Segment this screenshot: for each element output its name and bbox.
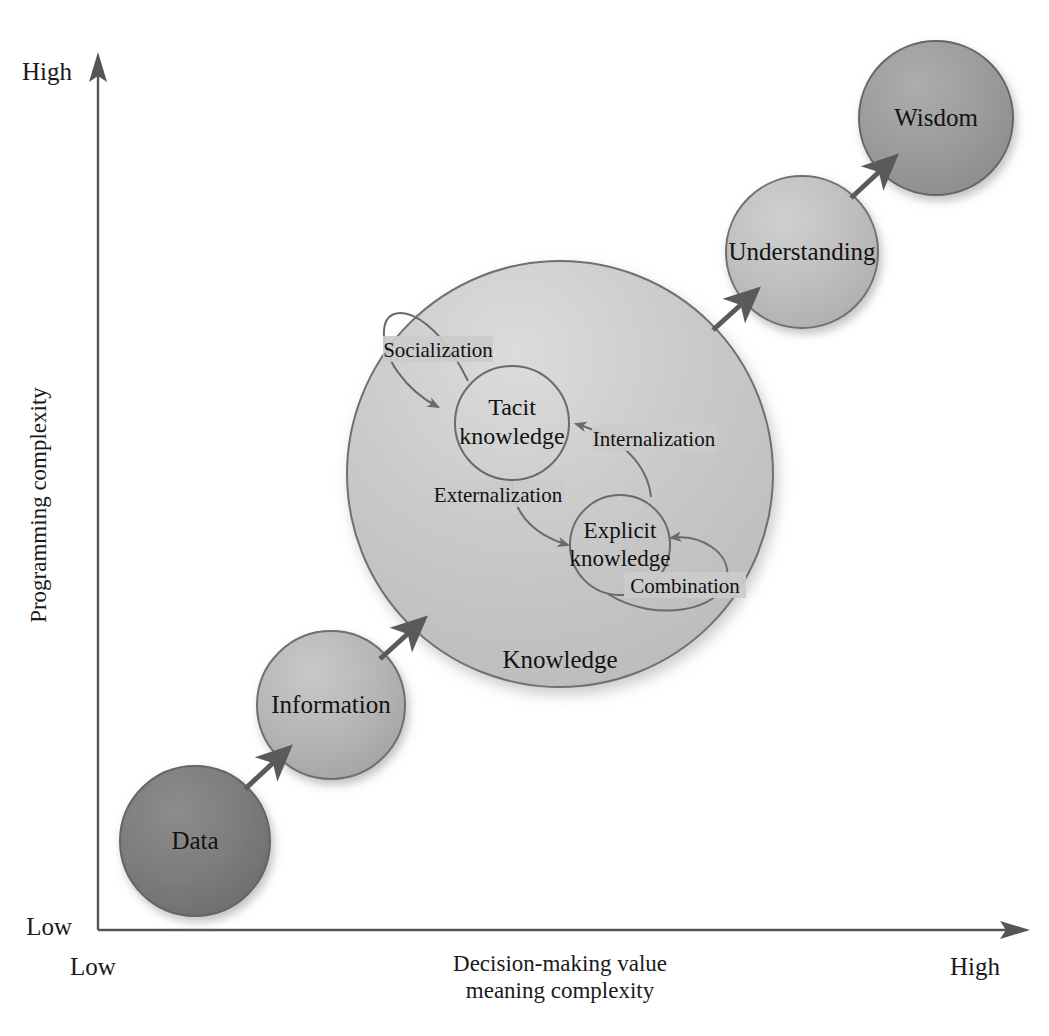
combination-label: Combination — [630, 574, 740, 598]
tacit-knowledge-label-line1: Tacit — [488, 394, 536, 420]
node-knowledge[interactable]: Knowledge — [347, 261, 773, 687]
x-axis-title-line1: Decision-making value — [453, 951, 667, 976]
y-axis-low-label: Low — [26, 913, 72, 940]
data-label: Data — [171, 827, 218, 854]
internalization-label: Internalization — [593, 427, 716, 451]
socialization-label: Socialization — [383, 338, 493, 362]
node-understanding[interactable]: Understanding — [726, 176, 878, 328]
tacit-knowledge-label-line2: knowledge — [459, 423, 564, 449]
arrow-information-to-knowledge — [380, 620, 423, 659]
y-axis-high-label: High — [22, 58, 73, 85]
arrow-knowledge-to-understanding — [713, 291, 756, 330]
dikw-seci-diagram: High Low Programming complexity Low High… — [0, 0, 1049, 1036]
explicit-knowledge-label-line2: knowledge — [570, 546, 671, 571]
diagram-canvas: High Low Programming complexity Low High… — [0, 0, 1049, 1036]
knowledge-label: Knowledge — [502, 646, 617, 673]
x-axis-title-line2: meaning complexity — [466, 978, 655, 1003]
wisdom-label: Wisdom — [894, 104, 978, 131]
understanding-label: Understanding — [728, 238, 876, 265]
x-axis-low-label: Low — [70, 953, 116, 980]
information-label: Information — [271, 691, 391, 718]
knowledge-circle[interactable] — [347, 261, 773, 687]
x-axis-high-label: High — [950, 953, 1001, 980]
externalization-label: Externalization — [434, 483, 563, 507]
arrow-data-to-information — [245, 749, 288, 789]
y-axis-title: Programming complexity — [26, 387, 51, 623]
explicit-knowledge-label-line1: Explicit — [584, 518, 657, 543]
